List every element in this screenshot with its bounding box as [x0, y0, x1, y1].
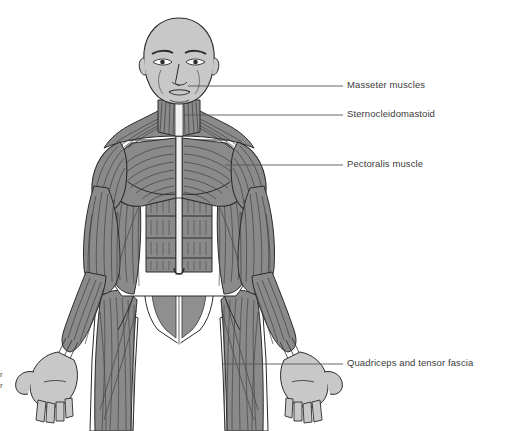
edge-fragment-lower: r: [0, 381, 3, 390]
label-pectoralis-muscle: Pectoralis muscle: [347, 158, 423, 169]
rectus-abdominis: [146, 194, 212, 274]
figure-body: [16, 18, 343, 431]
label-quadriceps-and-tensor-fascia: Quadriceps and tensor fascia: [347, 357, 473, 368]
neck-group: [158, 100, 200, 136]
head-group: [139, 18, 219, 104]
label-sternocleidomastoid: Sternocleidomastoid: [347, 108, 435, 119]
label-masseter-muscles: Masseter muscles: [347, 79, 425, 90]
illustration-canvas: Masseter muscles Sternocleidomastoid Pec…: [0, 0, 506, 431]
pectoralis-major: [112, 136, 247, 206]
edge-fragment-upper: r: [0, 370, 3, 379]
